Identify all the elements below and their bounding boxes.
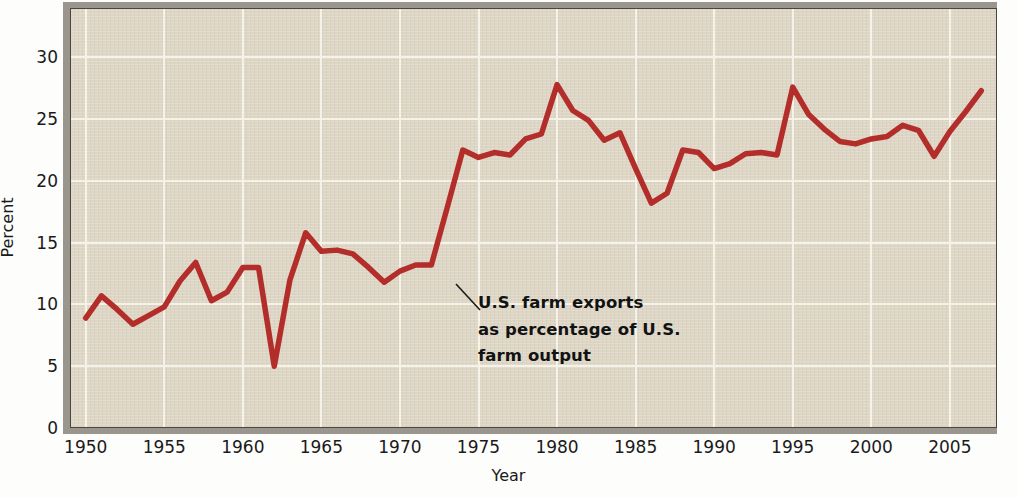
series-annotation: U.S. farm exports as percentage of U.S. … xyxy=(478,290,681,370)
x-tick-1990: 1990 xyxy=(674,437,754,457)
x-tick-1960: 1960 xyxy=(203,437,283,457)
y-tick-25: 25 xyxy=(6,109,58,129)
x-tick-1970: 1970 xyxy=(360,437,440,457)
x-tick-1950: 1950 xyxy=(46,437,126,457)
x-tick-1965: 1965 xyxy=(281,437,361,457)
y-tick-5: 5 xyxy=(6,356,58,376)
annotation-line-3: farm output xyxy=(478,343,681,370)
x-tick-1980: 1980 xyxy=(517,437,597,457)
y-tick-30: 30 xyxy=(6,47,58,67)
x-tick-1975: 1975 xyxy=(439,437,519,457)
annotation-line-2: as percentage of U.S. xyxy=(478,317,681,344)
x-tick-2000: 2000 xyxy=(831,437,911,457)
x-tick-1985: 1985 xyxy=(596,437,676,457)
chart-figure: 051015202530 195019551960196519701975198… xyxy=(0,0,1017,498)
x-tick-1955: 1955 xyxy=(124,437,204,457)
x-tick-2005: 2005 xyxy=(910,437,990,457)
y-tick-10: 10 xyxy=(6,294,58,314)
y-tick-0: 0 xyxy=(6,418,58,438)
y-axis-title: Percent xyxy=(0,197,17,257)
annotation-line-1: U.S. farm exports xyxy=(478,290,681,317)
x-axis-title: Year xyxy=(0,466,1017,485)
y-tick-20: 20 xyxy=(6,171,58,191)
x-tick-1995: 1995 xyxy=(753,437,833,457)
